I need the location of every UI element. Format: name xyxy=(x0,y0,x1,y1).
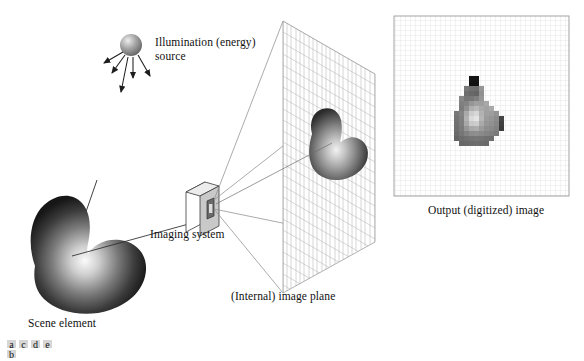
pixel-cell xyxy=(479,86,484,91)
pixel-cell xyxy=(464,126,469,131)
pixel-cell xyxy=(469,106,474,111)
panel-letter-key: a b c d e xyxy=(6,339,53,359)
figure-root: Illumination (energy) source Imaging sys… xyxy=(0,0,584,361)
pixel-cell xyxy=(474,101,479,106)
pixel-cell xyxy=(479,136,484,141)
pixel-cell xyxy=(454,121,459,126)
pixel-cell xyxy=(464,106,469,111)
pixel-cell xyxy=(459,141,464,146)
illumination-source-icon xyxy=(104,34,150,92)
pixel-cell xyxy=(459,136,464,141)
pixel-cell xyxy=(479,106,484,111)
pixel-cell xyxy=(479,91,484,96)
pixel-cell xyxy=(464,96,469,101)
panel-letter-a: a xyxy=(6,339,17,349)
pixel-cell xyxy=(474,141,479,146)
panel-letter-stack: a b xyxy=(6,339,17,359)
pixel-cell xyxy=(499,121,504,126)
pixel-cell xyxy=(484,116,489,121)
pixel-cell xyxy=(494,131,499,136)
pixel-cell xyxy=(484,106,489,111)
pixel-cell xyxy=(484,111,489,116)
pixel-cell xyxy=(469,96,474,101)
panel-letter-b: b xyxy=(6,349,17,359)
pixel-cell xyxy=(479,96,484,101)
pixel-cell xyxy=(464,111,469,116)
pixel-cell xyxy=(469,76,474,81)
panel-letter-c: c xyxy=(18,339,29,349)
pixel-cell xyxy=(489,111,494,116)
pixel-cell xyxy=(464,101,469,106)
pixel-cell xyxy=(469,101,474,106)
pixel-cell xyxy=(469,81,474,86)
pixel-cell xyxy=(494,121,499,126)
pixel-cell xyxy=(499,126,504,131)
pixel-cell xyxy=(474,126,479,131)
pixel-cell xyxy=(484,141,489,146)
output-digitized-image xyxy=(394,16,569,196)
pixel-cell xyxy=(454,126,459,131)
pixel-cell xyxy=(479,101,484,106)
pixel-cell xyxy=(489,136,494,141)
pixel-cell xyxy=(454,131,459,136)
pixel-cell xyxy=(469,116,474,121)
pixel-cell xyxy=(474,91,479,96)
pixel-cell xyxy=(474,131,479,136)
pixel-cell xyxy=(494,111,499,116)
pixel-cell xyxy=(479,116,484,121)
illumination-source-label: Illumination (energy) source xyxy=(155,36,256,63)
pixel-cell xyxy=(484,121,489,126)
scene-element-blob xyxy=(31,196,146,314)
pixel-cell xyxy=(459,101,464,106)
figure-graphics xyxy=(0,0,584,361)
pixel-cell xyxy=(469,131,474,136)
pixel-cell xyxy=(459,121,464,126)
pixel-cell xyxy=(489,106,494,111)
pixel-cell xyxy=(484,131,489,136)
pixel-cell xyxy=(464,86,469,91)
image-plane-label: (Internal) image plane xyxy=(231,290,335,304)
pixel-cell xyxy=(489,131,494,136)
pixel-cell xyxy=(459,111,464,116)
pixel-cell xyxy=(464,136,469,141)
pixel-cell xyxy=(459,126,464,131)
panel-letter-d: d xyxy=(30,339,41,349)
pixel-cell xyxy=(469,141,474,146)
pixel-cell xyxy=(469,136,474,141)
pixel-cell xyxy=(474,106,479,111)
pixel-cell xyxy=(454,116,459,121)
pixel-cell xyxy=(469,91,474,96)
pixel-cell xyxy=(474,86,479,91)
pixel-cell xyxy=(469,121,474,126)
pixel-cell xyxy=(494,126,499,131)
pixel-cell xyxy=(459,116,464,121)
pixel-cell xyxy=(474,96,479,101)
pixel-cell xyxy=(484,101,489,106)
pixel-cell xyxy=(469,126,474,131)
pixel-cell xyxy=(469,111,474,116)
pixel-cell xyxy=(469,86,474,91)
pixel-cell xyxy=(489,126,494,131)
imaging-system-label: Imaging system xyxy=(150,228,225,242)
pixel-cell xyxy=(479,111,484,116)
pixel-cell xyxy=(459,106,464,111)
pixel-cell xyxy=(474,81,479,86)
pixel-cell xyxy=(459,131,464,136)
pixel-cell xyxy=(499,116,504,121)
pixel-cell xyxy=(474,121,479,126)
pixel-cell xyxy=(484,136,489,141)
pixel-cell xyxy=(479,141,484,146)
pixel-cell xyxy=(474,116,479,121)
pixel-cell xyxy=(464,91,469,96)
pixel-cell xyxy=(464,121,469,126)
pixel-cell xyxy=(474,76,479,81)
pixel-cell xyxy=(484,126,489,131)
pixel-cell xyxy=(474,111,479,116)
scene-element-label: Scene element xyxy=(28,317,96,331)
pixel-cell xyxy=(479,126,484,131)
pixel-cell xyxy=(464,116,469,121)
pixel-cell xyxy=(489,121,494,126)
pixel-cell xyxy=(474,136,479,141)
pixel-cell xyxy=(479,131,484,136)
output-image-label: Output (digitized) image xyxy=(428,204,544,218)
